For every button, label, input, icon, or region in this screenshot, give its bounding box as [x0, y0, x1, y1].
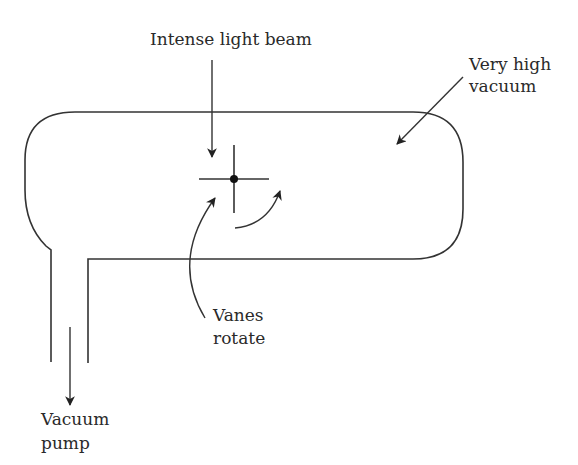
vacuum-pointer-arrow	[397, 77, 463, 144]
label-light-beam: Intense light beam	[150, 27, 312, 51]
label-vacuum-pump-2: pump	[41, 431, 90, 455]
vane-pivot	[230, 175, 238, 183]
rotation-arrow-right	[235, 191, 280, 228]
label-very-high: Very high	[469, 52, 551, 76]
label-rotate: rotate	[213, 326, 265, 350]
label-vanes: Vanes	[213, 303, 264, 327]
label-vacuum-pump-1: Vacuum	[41, 407, 109, 431]
rotation-arrow-left	[190, 198, 215, 318]
label-vacuum: vacuum	[469, 74, 536, 98]
